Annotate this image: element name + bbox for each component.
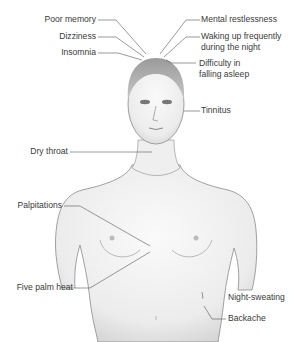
neck xyxy=(132,140,180,176)
label-dizziness: Dizziness xyxy=(20,31,96,42)
label-mental-restlessness: Mental restlessness xyxy=(201,14,277,25)
label-waking-up: Waking up frequently during the night xyxy=(201,31,281,52)
label-insomnia: Insomnia xyxy=(20,47,96,58)
label-backache: Backache xyxy=(228,313,266,324)
label-palpitations: Palpitations xyxy=(0,200,62,211)
label-dry-throat: Dry throat xyxy=(0,146,68,157)
label-difficulty-asleep: Difficulty in falling asleep xyxy=(199,58,249,79)
label-tinnitus: Tinnitus xyxy=(201,105,231,116)
label-poor-memory: Poor memory xyxy=(20,14,96,25)
label-five-palm-heat: Five palm heat xyxy=(0,282,73,293)
symptom-diagram: Poor memory Dizziness Insomnia Dry throa… xyxy=(0,0,304,342)
torso xyxy=(55,165,256,342)
label-night-sweating: Night-sweating xyxy=(228,292,285,303)
